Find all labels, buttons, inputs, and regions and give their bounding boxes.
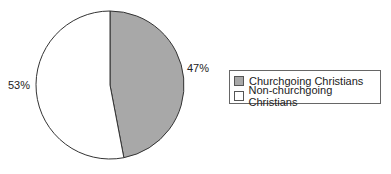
- slice-label-churchgoing: 47%: [187, 62, 209, 74]
- legend-swatch: [234, 91, 244, 101]
- pie-chart: 47% 53% Churchgoing Christians Non-churc…: [0, 0, 391, 174]
- legend: Churchgoing Christians Non-churchgoing C…: [229, 70, 381, 104]
- pie-slice-churchgoing: [110, 11, 184, 158]
- legend-label: Non-churchgoing Christians: [249, 84, 376, 108]
- legend-item-non-churchgoing: Non-churchgoing Christians: [234, 88, 376, 103]
- legend-swatch: [234, 76, 244, 86]
- slice-label-non-churchgoing: 53%: [8, 79, 30, 91]
